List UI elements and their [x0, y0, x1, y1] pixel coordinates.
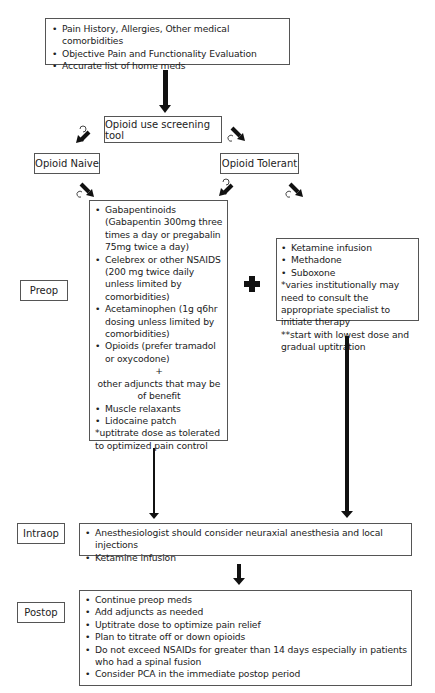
- intraop-item: Anesthesiologist should consider neuraxi…: [85, 527, 407, 552]
- screening-tool-box: Opioid use screening tool: [104, 116, 222, 143]
- postop-item: Add adjuncts as needed: [85, 606, 407, 618]
- assessment-item: Pain History, Allergies, Other medical c…: [52, 23, 283, 48]
- postop-item: Do not exceed NSAIDs for greater than 14…: [85, 644, 407, 669]
- preop-tolerant-item: Suboxone: [281, 267, 414, 279]
- intraop-item: Ketamine infusion: [85, 552, 407, 564]
- preop-naive-item: Acetaminophen (1g q6hr dosing unless lim…: [95, 303, 223, 340]
- arrowhead-icon: [341, 511, 353, 518]
- preop-naive-item: Celebrex or other NSAIDS (200 mg twice d…: [95, 254, 223, 304]
- curved-arrow-down-left-icon: [217, 176, 237, 202]
- curved-arrow-down-left-icon: [74, 123, 94, 149]
- intraop-box: Anesthesiologist should consider neuraxi…: [79, 523, 412, 556]
- postop-item: Continue preop meds: [85, 594, 407, 606]
- opioid-tolerant-box: Opioid Tolerant: [220, 153, 299, 174]
- arrowhead-icon: [149, 513, 159, 519]
- plus-text: +: [95, 365, 223, 377]
- postop-phase-label-box: Postop: [17, 602, 65, 623]
- opioid-naive-box: Opioid Naive: [34, 153, 100, 174]
- preop-tolerant-note: *varies institutionally may need to cons…: [281, 279, 414, 329]
- adjuncts-heading: other adjuncts that may be of benefit: [95, 378, 223, 403]
- postop-box: Continue preop meds Add adjuncts as need…: [79, 590, 412, 686]
- assessment-box: Pain History, Allergies, Other medical c…: [45, 18, 290, 65]
- preop-naive-note: *uptitrate dose as tolerated to optimize…: [95, 427, 223, 452]
- postop-item: Consider PCA in the immediate postop per…: [85, 668, 407, 680]
- preop-tolerant-item: Ketamine infusion: [281, 242, 414, 254]
- intraop-phase-label-box: Intraop: [17, 523, 65, 544]
- preop-tolerant-item: Methadone: [281, 254, 414, 266]
- arrowhead-icon: [233, 578, 245, 585]
- preop-tolerant-box: Ketamine infusion Methadone Suboxone *va…: [276, 238, 419, 321]
- arrow-down-icon: [237, 564, 241, 579]
- postop-item: Uptitrate dose to optimize pain relief: [85, 619, 407, 631]
- arrow-down-icon: [163, 70, 168, 106]
- curved-arrow-down-right-icon: [284, 179, 306, 205]
- intraop-phase-label: Intraop: [23, 528, 59, 539]
- preop-naive-box: Gabapentinoids (Gabapentin 300mg three t…: [89, 200, 228, 441]
- arrow-down-icon: [345, 336, 349, 512]
- curved-arrow-down-right-icon: [226, 123, 248, 149]
- opioid-naive-label: Opioid Naive: [35, 158, 99, 169]
- preop-phase-label: Preop: [30, 285, 58, 296]
- postop-phase-label: Postop: [24, 607, 57, 618]
- preop-naive-item: Opioids (prefer tramadol or oxycodone): [95, 340, 223, 365]
- preop-phase-label-box: Preop: [20, 280, 68, 301]
- postop-item: Plan to titrate off or down opioids: [85, 631, 407, 643]
- adjunct-item: Muscle relaxants: [95, 403, 223, 415]
- plus-icon: [244, 276, 260, 292]
- arrowhead-icon: [159, 105, 171, 113]
- assessment-item: Objective Pain and Functionality Evaluat…: [52, 48, 283, 60]
- screening-tool-label: Opioid use screening tool: [105, 119, 221, 141]
- adjunct-item: Lidocaine patch: [95, 415, 223, 427]
- preop-naive-item: Gabapentinoids (Gabapentin 300mg three t…: [95, 204, 223, 254]
- opioid-tolerant-label: Opioid Tolerant: [222, 158, 297, 169]
- arrow-down-icon: [153, 448, 155, 514]
